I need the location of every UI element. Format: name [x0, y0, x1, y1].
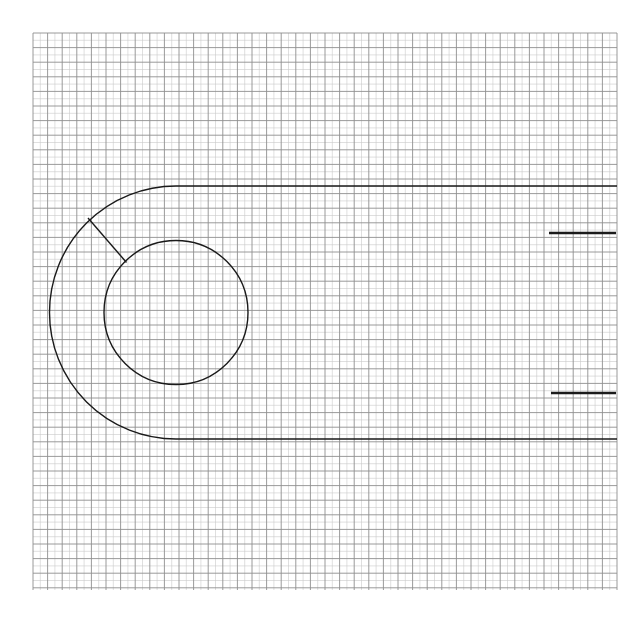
grid-major-lines — [33, 33, 617, 590]
page-background — [0, 0, 627, 626]
technical-drawing — [0, 0, 627, 626]
drawing-canvas — [0, 0, 627, 626]
